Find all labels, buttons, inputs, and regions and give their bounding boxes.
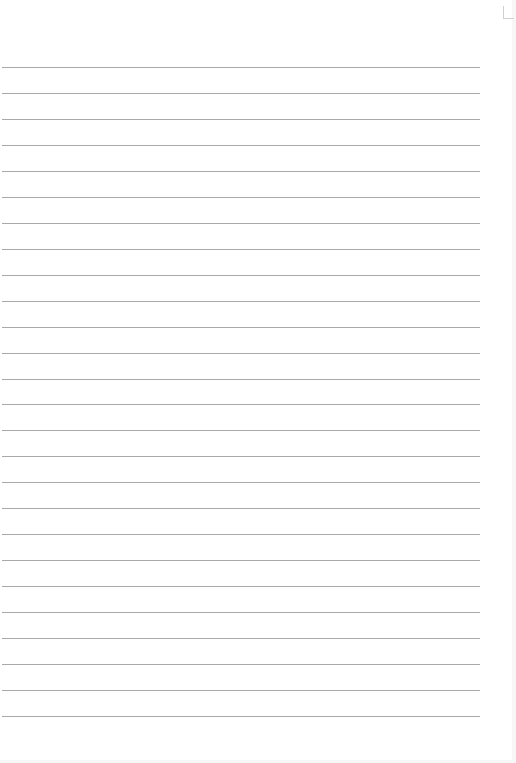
ruled-line bbox=[2, 171, 480, 172]
page-corner-mark bbox=[503, 6, 514, 19]
ruled-line bbox=[2, 534, 480, 535]
ruled-line bbox=[2, 93, 480, 94]
ruled-line bbox=[2, 301, 480, 302]
ruled-line bbox=[2, 430, 480, 431]
ruled-line bbox=[2, 508, 480, 509]
lined-paper-sheet bbox=[0, 0, 512, 760]
ruled-line bbox=[2, 327, 480, 328]
ruled-line bbox=[2, 197, 480, 198]
ruled-line bbox=[2, 482, 480, 483]
ruled-line bbox=[2, 716, 480, 717]
ruled-line bbox=[2, 404, 480, 405]
ruled-line bbox=[2, 67, 480, 68]
ruled-line bbox=[2, 353, 480, 354]
ruled-line bbox=[2, 638, 480, 639]
ruled-line bbox=[2, 560, 480, 561]
ruled-line bbox=[2, 223, 480, 224]
ruled-line bbox=[2, 119, 480, 120]
ruled-line bbox=[2, 379, 480, 380]
ruled-line bbox=[2, 275, 480, 276]
ruled-line bbox=[2, 690, 480, 691]
ruled-line bbox=[2, 664, 480, 665]
ruled-line bbox=[2, 586, 480, 587]
ruled-line bbox=[2, 249, 480, 250]
ruled-line bbox=[2, 612, 480, 613]
ruled-line bbox=[2, 456, 480, 457]
ruled-line bbox=[2, 145, 480, 146]
